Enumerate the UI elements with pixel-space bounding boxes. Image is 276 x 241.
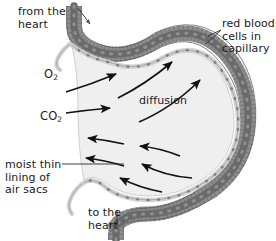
alveolus-gas-exchange-diagram: from the heart red blood cells in capill… bbox=[0, 0, 276, 241]
alveolus-sac bbox=[72, 46, 234, 196]
diagram-canvas bbox=[0, 0, 276, 241]
